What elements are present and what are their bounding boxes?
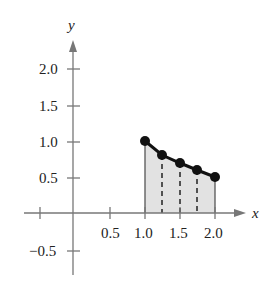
data-point (175, 158, 185, 168)
x-tick-label: 2.0 (204, 225, 223, 241)
data-point (192, 165, 202, 175)
chart: y x 0.5 1.0 1.5 2.0 2.0 1.5 1.0 0.5 −0.5 (0, 0, 270, 287)
y-tick-label: 0.5 (39, 170, 58, 186)
x-axis-arrow-icon (234, 209, 246, 217)
y-tick-label: 1.0 (39, 134, 58, 150)
data-point (157, 150, 167, 160)
data-point (210, 172, 220, 182)
x-axis-label: x (251, 205, 259, 221)
y-tick-label: 2.0 (39, 61, 58, 77)
y-axis-arrow-icon (69, 40, 77, 52)
y-tick-label: −0.5 (29, 243, 56, 259)
data-point (140, 136, 150, 146)
x-tick-label: 0.5 (101, 225, 120, 241)
x-tick-label: 1.5 (169, 225, 188, 241)
x-tick-label: 1.0 (134, 225, 153, 241)
y-axis-label: y (66, 17, 75, 33)
y-tick-label: 1.5 (39, 98, 58, 114)
